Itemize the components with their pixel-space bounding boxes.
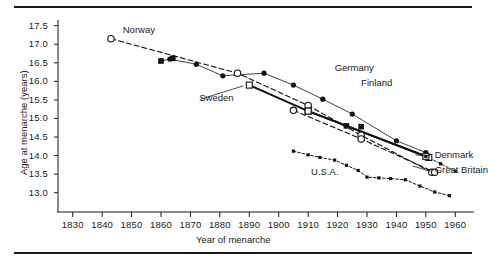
data-point-marker bbox=[358, 136, 364, 142]
series-label-germany: Germany bbox=[335, 62, 374, 73]
annotation-leader-lines bbox=[201, 86, 431, 171]
data-point-marker bbox=[448, 194, 451, 197]
x-tick-label: 1960 bbox=[435, 219, 475, 230]
data-point-marker bbox=[220, 73, 225, 78]
data-point-marker bbox=[418, 184, 421, 187]
data-point-marker bbox=[292, 150, 295, 153]
series-label-denmark: Denmark bbox=[435, 149, 474, 160]
data-point-marker bbox=[170, 56, 176, 62]
y-tick-label: 13.0 bbox=[14, 187, 48, 198]
data-point-marker bbox=[344, 123, 350, 129]
data-point-marker bbox=[290, 107, 296, 113]
y-axis-title: Age at menarche (years) bbox=[18, 70, 29, 175]
data-point-marker bbox=[389, 177, 392, 180]
axis-lines bbox=[57, 20, 474, 212]
data-point-marker bbox=[108, 36, 114, 42]
data-point-marker bbox=[365, 176, 368, 179]
data-point-marker bbox=[305, 108, 311, 114]
data-point-marker bbox=[433, 190, 436, 193]
data-point-marker bbox=[333, 158, 336, 161]
data-point-marker bbox=[345, 164, 348, 167]
data-point-marker bbox=[234, 70, 240, 76]
series-label-norway: Norway bbox=[123, 24, 155, 35]
data-point-marker bbox=[357, 169, 360, 172]
series-label-finland: Finland bbox=[361, 77, 392, 88]
tick-marks bbox=[54, 26, 455, 217]
data-point-marker bbox=[358, 124, 364, 130]
series-label-sweden: Sweden bbox=[199, 92, 233, 103]
data-point-marker bbox=[194, 62, 199, 67]
x-axis-title: Year of menarche bbox=[196, 234, 271, 245]
data-point-marker bbox=[394, 138, 399, 143]
series-label-great-britain: Great Britain bbox=[435, 164, 488, 175]
data-point-marker bbox=[350, 111, 355, 116]
series-markers bbox=[108, 36, 457, 198]
data-point-marker bbox=[404, 178, 407, 181]
data-point-marker bbox=[158, 58, 164, 64]
data-point-marker bbox=[246, 82, 252, 88]
data-point-marker bbox=[261, 71, 266, 76]
data-point-marker bbox=[307, 153, 310, 156]
series-line-finland bbox=[161, 59, 426, 153]
series-line-great-britain bbox=[293, 110, 434, 172]
y-tick-label: 16.5 bbox=[14, 57, 48, 68]
data-point-marker bbox=[320, 97, 325, 102]
data-point-marker bbox=[318, 156, 321, 159]
series-line-denmark bbox=[308, 111, 426, 156]
y-tick-label: 17.0 bbox=[14, 38, 48, 49]
y-tick-label: 17.5 bbox=[14, 20, 48, 31]
series-label-u-s-a-: U.S.A. bbox=[311, 166, 338, 177]
data-point-marker bbox=[377, 176, 380, 179]
data-point-marker bbox=[291, 82, 296, 87]
